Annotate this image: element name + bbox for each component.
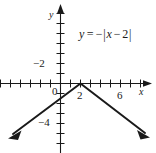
origin-label: 0 (52, 86, 58, 97)
equation-negation: − (96, 27, 103, 41)
equation-abs-open: | (103, 27, 107, 42)
coordinate-plane-svg (0, 0, 156, 153)
x-axis-label: x (139, 87, 143, 97)
graph-figure: y=−|x−2| y x 0 −2 −4 2 6 (0, 0, 156, 153)
curve-right-branch (81, 84, 146, 134)
equation-lhs: y (79, 27, 85, 41)
equation-variable: x (107, 27, 113, 41)
y-axis-label: y (49, 10, 53, 20)
y-axis-arrowhead (57, 4, 64, 13)
x-tick-label-6: 6 (117, 90, 123, 101)
y-tick-label-minus-2: −2 (33, 58, 45, 69)
equation-annotation: y=−|x−2| (79, 28, 132, 40)
equation-equals: = (87, 27, 94, 41)
equation-minus: − (114, 27, 121, 41)
equation-abs-close: | (129, 27, 133, 42)
x-axis-arrowhead (143, 80, 152, 87)
y-tick-label-minus-4: −4 (38, 117, 50, 128)
x-tick-label-2: 2 (77, 90, 83, 101)
